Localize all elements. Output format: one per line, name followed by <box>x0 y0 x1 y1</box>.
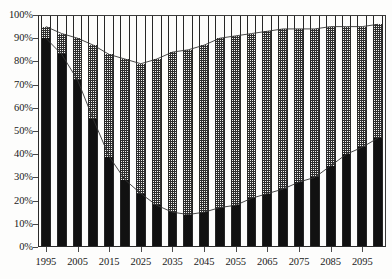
x-axis-tick-mark <box>362 247 363 252</box>
x-axis-tick-mark <box>141 247 142 252</box>
x-axis-tick-mark <box>267 247 268 252</box>
x-axis-tick-mark <box>204 247 205 252</box>
x-axis-tick-mark <box>236 247 237 252</box>
x-axis-tick-mark <box>46 247 47 252</box>
x-axis-tick-label: 2095 <box>339 256 385 267</box>
x-axis-tick-mark <box>331 247 332 252</box>
x-axis: 1995200520152025203520452055206520752085… <box>0 0 392 279</box>
stacked-bar-chart: 0%10%20%30%40%50%60%70%80%90%100% 199520… <box>0 0 392 279</box>
x-axis-tick-mark <box>109 247 110 252</box>
x-axis-tick-mark <box>172 247 173 252</box>
x-axis-tick-mark <box>78 247 79 252</box>
x-axis-tick-mark <box>299 247 300 252</box>
